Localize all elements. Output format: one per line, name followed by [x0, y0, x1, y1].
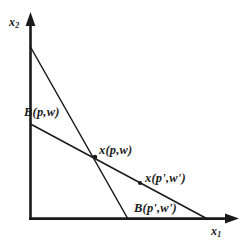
demand-point-ppwp-label: x(p',w')	[145, 172, 186, 185]
x1-axis-label-subscript: 1	[217, 230, 221, 239]
budget-line-steep	[31, 47, 129, 219]
x2-axis-arrowhead-icon	[26, 12, 36, 26]
x1-axis-label: x1	[211, 225, 221, 239]
diagram-canvas	[0, 0, 246, 243]
budget-set-figure: x2 x1 B(p,w) B(p',w') x(p,w) x(p',w')	[0, 0, 246, 243]
demand-point-pw-marker	[93, 155, 98, 160]
x2-axis-label-subscript: 2	[15, 21, 19, 30]
x2-axis-label: x2	[9, 16, 19, 30]
demand-point-ppwp-marker	[138, 181, 142, 185]
budget-line-steep-label: B(p,w)	[24, 106, 60, 119]
budget-line-shallow-label: B(p',w')	[134, 202, 177, 215]
x1-axis-arrowhead-icon	[225, 214, 239, 224]
demand-point-pw-label: x(p,w)	[99, 144, 133, 157]
